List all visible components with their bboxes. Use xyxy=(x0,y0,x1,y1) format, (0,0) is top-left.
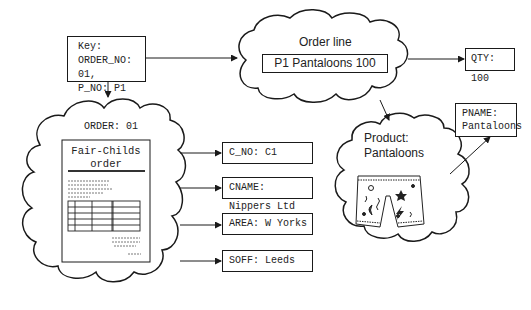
key-order-no: ORDER_NO: 01, xyxy=(78,54,145,82)
attribute-soff-text: SOFF: Leeds xyxy=(229,255,295,266)
document-title-line1: Fair-Childs xyxy=(62,145,150,158)
key-box: Key: ORDER_NO: 01, P_NO: P1 xyxy=(67,36,146,82)
product-title-line1: Product: xyxy=(364,131,424,146)
attribute-area: AREA: W Yorks xyxy=(222,213,313,235)
attribute-c-no: C_NO: C1 xyxy=(222,142,313,164)
document-title-line2: order xyxy=(62,158,150,171)
attribute-soff: SOFF: Leeds xyxy=(222,250,313,272)
qty-box: QTY: 100 xyxy=(465,48,515,71)
pname-label: PNAME: xyxy=(462,107,516,120)
order-line-title: Order line xyxy=(299,35,352,49)
attribute-cname: CNAME: Nippers Ltd xyxy=(222,177,313,199)
document-title: Fair-Childs order xyxy=(62,145,150,171)
key-label: Key: xyxy=(78,40,145,54)
product-title: Product: Pantaloons xyxy=(364,131,424,161)
pname-box: PNAME: Pantaloons xyxy=(455,103,517,137)
order-line-record-text: P1 Pantaloons 100 xyxy=(274,56,375,70)
pname-value: Pantaloons xyxy=(462,120,516,133)
attribute-area-text: AREA: W Yorks xyxy=(229,218,307,229)
order-line-record: P1 Pantaloons 100 xyxy=(262,54,388,73)
attribute-cname-text: CNAME: Nippers Ltd xyxy=(229,182,295,212)
key-p-no: P_NO: P1 xyxy=(78,82,145,96)
attribute-c-no-text: C_NO: C1 xyxy=(229,147,277,158)
order-title: ORDER: 01 xyxy=(84,121,138,132)
product-title-line2: Pantaloons xyxy=(364,146,424,161)
